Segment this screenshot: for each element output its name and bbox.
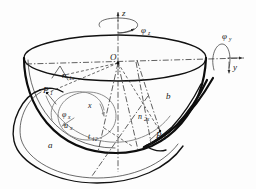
n2x-symbol: n (138, 112, 142, 121)
n1x-symbol: n (62, 70, 67, 80)
p1-symbol: P (42, 85, 49, 95)
phi-z-label: φ z (141, 25, 151, 36)
x-axis-inner-label: x (87, 101, 92, 110)
diagram-canvas: z y φ z φ y φ x x O P 1 P 2 (0, 0, 256, 189)
n2x-subscript: 2x (144, 116, 150, 122)
phi-x-subscript: x (67, 114, 71, 120)
p2-symbol: P (155, 130, 162, 140)
t12-subscript: 12 (92, 136, 98, 142)
phi-y-rotation-loop (213, 44, 230, 70)
z-axis-label: z (121, 8, 126, 18)
p2-subscript: 2 (163, 135, 166, 141)
phi-z-symbol: φ (141, 25, 146, 35)
phi-y-symbol: φ (222, 31, 227, 41)
phi-y-label: φ y (222, 31, 232, 42)
ux-symbol: u (64, 121, 68, 130)
body-b-label: b (166, 91, 171, 101)
origin-marker-dot (117, 62, 120, 65)
p1-subscript: 1 (50, 90, 53, 96)
phi-z-subscript: z (147, 30, 151, 36)
figure-container: z y φ z φ y φ x x O P 1 P 2 (0, 0, 256, 189)
origin-label: O (110, 52, 117, 62)
y-axis-label: y (232, 62, 237, 72)
n1x-subscript: 1x (69, 75, 75, 81)
body-a-label: a (48, 140, 53, 150)
phi-x-symbol: φ (62, 110, 67, 119)
ux-subscript: x (69, 125, 73, 131)
phi-y-subscript: y (228, 36, 232, 42)
